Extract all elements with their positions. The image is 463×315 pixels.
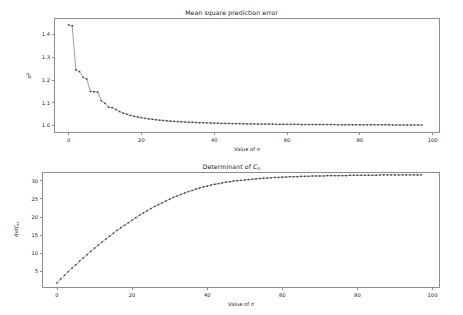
data-point-marker [312,124,314,126]
data-point-marker [414,124,416,126]
data-point-marker [93,91,95,93]
data-point-marker [383,174,385,176]
data-point-marker [228,123,230,125]
y-tick-mark [40,271,42,272]
data-point-marker [161,202,163,204]
data-point-marker [75,264,77,266]
data-point-marker [180,194,182,196]
data-point-marker [405,174,407,176]
x-tick-label: 40 [202,137,226,143]
data-point-marker [319,175,321,177]
data-point-marker [267,177,269,179]
data-point-marker [83,257,85,259]
data-point-marker [398,174,400,176]
x-tick-label: 80 [348,137,372,143]
data-point-marker [394,174,396,176]
x-tick-mark [287,133,288,135]
data-point-marker [115,109,117,111]
x-tick-mark [432,288,433,290]
data-point-marker [154,206,156,208]
data-point-marker [105,238,107,240]
y-tick-label: 10 [16,250,38,256]
y-tick-mark [40,217,42,218]
data-point-marker [199,122,201,124]
data-point-marker [261,123,263,125]
x-tick-label: 20 [120,292,144,298]
x-tick-mark [282,288,283,290]
data-point-marker [257,123,259,125]
data-point-marker [327,175,329,177]
data-point-marker [60,278,62,280]
data-point-marker [381,124,383,126]
data-line [69,25,422,125]
data-point-marker [293,176,295,178]
data-point-marker [137,116,139,118]
x-tick-label: 20 [129,137,153,143]
x-tick-mark [214,133,215,135]
data-point-marker [349,175,351,177]
data-point-marker [79,71,81,73]
data-point-marker [235,123,237,125]
data-point-marker [353,175,355,177]
data-point-marker [177,121,179,123]
y-tick-label: 1.3 [28,54,50,60]
data-point-marker [363,124,365,126]
data-point-marker [279,124,281,126]
data-point-marker [195,122,197,124]
data-point-marker [252,179,254,181]
data-point-marker [330,124,332,126]
data-point-marker [206,122,208,124]
data-point-marker [301,124,303,126]
data-point-marker [348,124,350,126]
x-tick-mark [57,288,58,290]
data-point-marker [275,124,277,126]
data-point-marker [173,197,175,199]
data-point-marker [341,124,343,126]
data-point-marker [308,176,310,178]
panel-mean-square-prediction-error: Mean square prediction error σ2 Value of… [0,0,463,157]
data-point-marker [224,123,226,125]
x-tick-label: 80 [345,292,369,298]
x-tick-mark [68,133,69,135]
data-point-marker [120,227,122,229]
data-point-marker [403,124,405,126]
data-point-marker [82,77,84,79]
x-tick-label: 40 [195,292,219,298]
figure-container: Mean square prediction error σ2 Value of… [0,0,463,315]
data-point-marker [173,121,175,123]
data-point-marker [294,124,296,126]
x-tick-label: 0 [57,137,81,143]
data-point-marker [248,179,250,181]
data-point-marker [305,124,307,126]
y-tick-label: 20 [16,214,38,220]
series-mean-square-prediction-error [0,0,463,157]
data-point-marker [126,114,128,116]
data-point-marker [218,183,220,185]
data-point-marker [420,174,422,176]
data-point-marker [263,177,265,179]
data-point-marker [143,212,145,214]
data-point-marker [250,123,252,125]
data-point-marker [264,123,266,125]
data-point-marker [357,175,359,177]
data-point-marker [101,241,103,243]
series-determinant-of-cn [0,157,463,314]
y-tick-label: 1.4 [28,31,50,37]
data-point-marker [421,124,423,126]
data-point-marker [246,123,248,125]
data-point-marker [406,124,408,126]
data-point-marker [104,103,106,105]
panel-determinant-of-cn: Determinant of Cn detCn Value of n 51015… [0,157,463,314]
data-point-marker [388,124,390,126]
data-point-marker [181,121,183,123]
data-point-marker [312,175,314,177]
x-tick-mark [357,288,358,290]
x-tick-mark [432,133,433,135]
y-tick-mark [52,102,54,103]
data-point-marker [150,208,152,210]
data-point-marker [243,123,245,125]
x-tick-label: 100 [421,137,445,143]
data-point-marker [370,124,372,126]
data-point-marker [170,120,172,122]
data-point-marker [130,115,132,117]
